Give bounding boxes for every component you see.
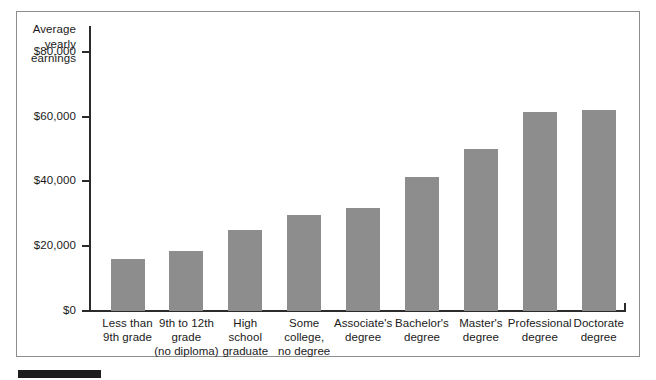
y-tick-mark-3 bbox=[82, 116, 90, 118]
plot-area: Averageyearlyearnings $0$20,000$40,000$6… bbox=[0, 0, 656, 380]
bar-4 bbox=[346, 208, 380, 311]
y-tick-label-2: $40,000 bbox=[0, 175, 76, 187]
y-tick-mark-1 bbox=[82, 245, 90, 247]
bar-3 bbox=[287, 215, 321, 311]
bar-0 bbox=[111, 259, 145, 311]
y-tick-label-4: $80,000 bbox=[0, 46, 76, 58]
y-axis-line bbox=[89, 26, 91, 312]
x-axis-end-tick bbox=[624, 303, 626, 312]
bar-2 bbox=[228, 230, 262, 311]
bar-1 bbox=[169, 251, 203, 311]
bar-8 bbox=[582, 110, 616, 311]
y-tick-mark-2 bbox=[82, 180, 90, 182]
bar-7 bbox=[523, 112, 557, 311]
y-tick-mark-4 bbox=[82, 51, 90, 53]
bar-5 bbox=[405, 177, 439, 311]
x-category-label-8: Doctorate degree bbox=[557, 316, 641, 344]
y-tick-mark-0 bbox=[82, 310, 90, 312]
y-tick-label-3: $60,000 bbox=[0, 111, 76, 123]
y-axis-title-line-0: Average bbox=[14, 22, 76, 37]
y-tick-label-0: $0 bbox=[0, 305, 76, 317]
y-axis-title: Averageyearlyearnings bbox=[14, 22, 76, 66]
bar-6 bbox=[464, 149, 498, 311]
chart-figure: Averageyearlyearnings $0$20,000$40,000$6… bbox=[0, 0, 656, 380]
bottom-black-rule bbox=[18, 370, 101, 378]
y-tick-label-1: $20,000 bbox=[0, 240, 76, 252]
